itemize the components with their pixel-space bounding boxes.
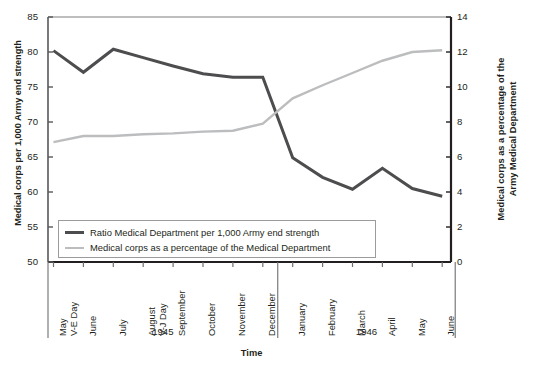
- legend-label-percentage: Medical corps as a percentage of the Med…: [90, 242, 330, 253]
- x-tick-label-month: May: [417, 318, 427, 336]
- x-tick-label-month: July: [118, 319, 128, 336]
- y-tick-label-right: 2: [457, 221, 483, 232]
- y-tick-label-left: 85: [12, 11, 38, 22]
- series-layer: [54, 49, 443, 196]
- legend-label-ratio: Ratio Medical Department per 1,000 Army …: [90, 227, 319, 238]
- y-tick-label-left: 70: [12, 116, 38, 127]
- y-tick-label-right: 14: [457, 11, 483, 22]
- legend-item-percentage: Medical corps as a percentage of the Med…: [65, 240, 375, 255]
- y-tick-label-right: 8: [457, 116, 483, 127]
- x-tick-label-month: May: [58, 318, 68, 336]
- y-tick-label-right: 12: [457, 46, 483, 57]
- y-axis-right-title-line1: Medical corps as a percentage of the: [496, 10, 508, 268]
- y-tick-label-right: 10: [457, 81, 483, 92]
- y-tick-label-left: 60: [12, 186, 38, 197]
- x-tick-label-month: June: [446, 316, 456, 336]
- legend-item-ratio: Ratio Medical Department per 1,000 Army …: [65, 225, 375, 240]
- x-tick-label-month: June: [88, 316, 98, 336]
- y-axis-right-title-line2: Army Medical Department: [508, 10, 520, 268]
- y-tick-label-left: 50: [12, 256, 38, 267]
- x-axis-year-label: 1945: [138, 326, 188, 337]
- chart-legend: Ratio Medical Department per 1,000 Army …: [58, 220, 376, 258]
- x-tick-label-month: December: [267, 293, 277, 336]
- x-axis-title: Time: [48, 348, 455, 358]
- y-tick-label-right: 4: [457, 186, 483, 197]
- series-line-ratio: [54, 49, 443, 196]
- x-tick-label-month: February: [327, 299, 337, 336]
- x-tick-label-month: January: [297, 303, 307, 336]
- y-tick-label-left: 80: [12, 46, 38, 57]
- legend-swatch-light-line-icon: [65, 247, 84, 249]
- y-tick-label-right: 0: [457, 256, 483, 267]
- y-axis-right-title: Medical corps as a percentage of the Arm…: [496, 10, 530, 268]
- x-tick-label-event: V-E Day: [69, 302, 79, 336]
- x-axis-year-label: 1946: [341, 326, 391, 337]
- legend-swatch-dark-line-icon: [65, 231, 84, 234]
- x-tick-label-month: November: [237, 293, 247, 336]
- y-tick-label-left: 55: [12, 221, 38, 232]
- chart-figure: Medical corps per 1,000 Army end strengt…: [0, 0, 538, 377]
- y-tick-label-right: 6: [457, 151, 483, 162]
- series-line-percentage: [54, 50, 443, 142]
- y-tick-label-left: 75: [12, 81, 38, 92]
- y-tick-label-left: 65: [12, 151, 38, 162]
- x-tick-label-month: October: [207, 303, 217, 336]
